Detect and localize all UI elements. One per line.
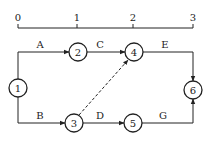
node-label: 6 — [190, 85, 196, 96]
edge-label-e: E — [161, 39, 168, 50]
edge-g — [142, 99, 193, 123]
node-label: 3 — [71, 118, 77, 129]
edge-label-c: C — [96, 39, 104, 50]
node-5: 5 — [124, 114, 142, 132]
edge-label-b: B — [36, 110, 43, 121]
timeline-tick-label: 1 — [74, 12, 80, 23]
node-4: 4 — [125, 43, 143, 61]
edges: A B C D E G — [18, 39, 193, 123]
node-label: 2 — [75, 47, 81, 58]
edge-label-g: G — [159, 110, 167, 121]
timeline: 0 1 2 3 — [15, 12, 196, 28]
node-1: 1 — [9, 79, 27, 97]
timeline-tick-label: 3 — [190, 12, 196, 23]
edge-dummy-3-4 — [79, 60, 128, 115]
timeline-tick-label: 0 — [15, 12, 21, 23]
node-6: 6 — [184, 81, 202, 99]
node-label: 4 — [131, 47, 137, 58]
node-label: 5 — [130, 118, 136, 129]
edge-e — [143, 52, 193, 81]
edge-a — [18, 52, 69, 79]
node-3: 3 — [65, 114, 83, 132]
node-label: 1 — [15, 83, 21, 94]
network-diagram: 0 1 2 3 A B C D E G 1 2 — [0, 0, 220, 148]
edge-label-a: A — [35, 39, 44, 50]
edge-label-d: D — [96, 110, 104, 121]
node-2: 2 — [69, 43, 87, 61]
timeline-tick-label: 2 — [130, 12, 136, 23]
